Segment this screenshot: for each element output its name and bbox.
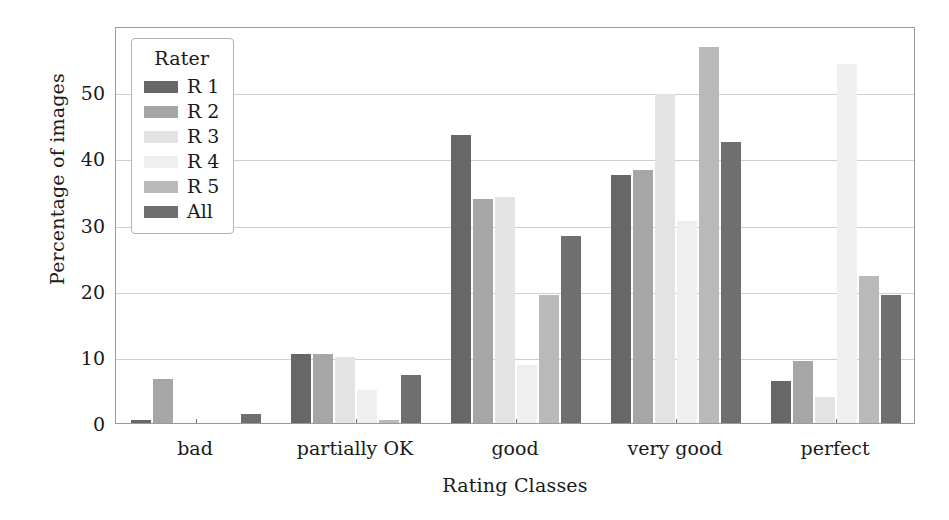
bar-group (291, 28, 421, 423)
legend-entries: R 1R 2R 3R 4R 5All (144, 74, 219, 224)
y-tick-label: 50 (55, 82, 105, 104)
bar[interactable] (451, 135, 471, 423)
x-tick-mark (836, 419, 837, 423)
bar[interactable] (633, 170, 653, 423)
x-axis-label: Rating Classes (115, 474, 915, 496)
legend-swatch (144, 181, 178, 193)
y-tick-label: 30 (55, 215, 105, 237)
bar[interactable] (677, 221, 697, 423)
bar[interactable] (473, 199, 493, 423)
bar[interactable] (357, 390, 377, 423)
legend: Rater R 1R 2R 3R 4R 5All (131, 38, 234, 234)
bar[interactable] (655, 94, 675, 423)
x-tick-mark (196, 419, 197, 423)
bar[interactable] (771, 381, 791, 423)
legend-entry[interactable]: All (144, 199, 219, 224)
x-tick-mark (356, 419, 357, 423)
x-tick-label: partially OK (297, 437, 413, 459)
legend-swatch (144, 81, 178, 93)
legend-swatch (144, 156, 178, 168)
legend-label: R 2 (187, 102, 219, 121)
bar[interactable] (495, 197, 515, 423)
bar-groups (116, 28, 914, 423)
bar[interactable] (313, 354, 333, 423)
legend-label: R 4 (187, 152, 219, 171)
bar[interactable] (539, 295, 559, 423)
plot-area (115, 27, 915, 424)
y-tick-label: 20 (55, 281, 105, 303)
bar[interactable] (379, 420, 399, 423)
bar[interactable] (859, 276, 879, 423)
x-tick-mark (516, 419, 517, 423)
legend-entry[interactable]: R 5 (144, 174, 219, 199)
bar[interactable] (561, 236, 581, 423)
bar[interactable] (837, 64, 857, 423)
legend-entry[interactable]: R 2 (144, 99, 219, 124)
x-tick-label: very good (627, 437, 722, 459)
y-tick-label: 40 (55, 148, 105, 170)
legend-swatch (144, 106, 178, 118)
bar-chart-figure: Percentage of images Rating Classes 0102… (0, 0, 949, 520)
legend-label: R 1 (187, 77, 219, 96)
bar[interactable] (131, 420, 151, 423)
bar[interactable] (241, 414, 261, 423)
bar[interactable] (793, 361, 813, 423)
bar-group (611, 28, 741, 423)
legend-entry[interactable]: R 3 (144, 124, 219, 149)
bar-group (771, 28, 901, 423)
legend-swatch (144, 131, 178, 143)
x-tick-label: bad (177, 437, 213, 459)
legend-entry[interactable]: R 4 (144, 149, 219, 174)
bar[interactable] (291, 354, 311, 423)
legend-label: R 5 (187, 177, 219, 196)
bar[interactable] (881, 295, 901, 423)
bar[interactable] (611, 175, 631, 423)
y-tick-label: 10 (55, 347, 105, 369)
bar[interactable] (335, 357, 355, 423)
x-tick-label: good (491, 437, 538, 459)
legend-label: All (187, 202, 213, 221)
bar[interactable] (721, 142, 741, 423)
x-tick-label: perfect (800, 437, 869, 459)
bar-group (451, 28, 581, 423)
bar[interactable] (153, 379, 173, 423)
legend-entry[interactable]: R 1 (144, 74, 219, 99)
legend-swatch (144, 206, 178, 218)
legend-label: R 3 (187, 127, 219, 146)
bar[interactable] (699, 47, 719, 423)
bar[interactable] (517, 365, 537, 423)
y-tick-label: 0 (55, 413, 105, 435)
x-tick-mark (676, 419, 677, 423)
bar[interactable] (401, 375, 421, 423)
legend-title: Rater (144, 47, 219, 69)
bar[interactable] (815, 397, 835, 423)
